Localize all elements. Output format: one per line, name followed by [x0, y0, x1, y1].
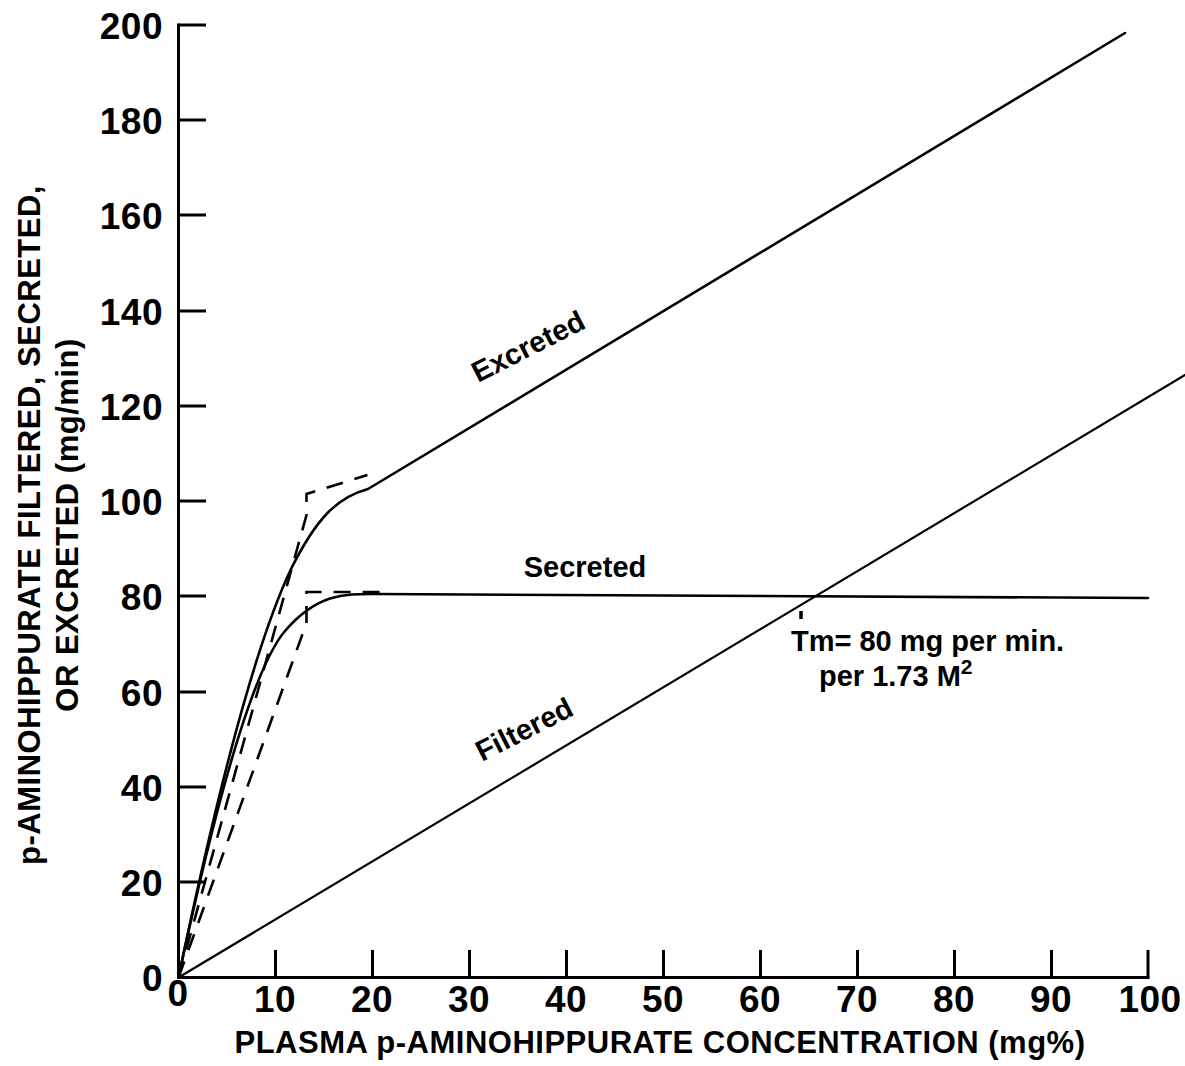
curve-label-secreted: Secreted	[524, 551, 647, 583]
y-ticklabel-40: 40	[121, 768, 163, 809]
y-ticklabel-120: 120	[100, 387, 163, 428]
x-ticks-group	[276, 950, 1149, 978]
tm-annotation-group: Tm= 80 mg per min. per 1.73 M2	[791, 611, 1064, 692]
tm-annotation-superscript: 2	[961, 655, 973, 678]
curve-filtered	[179, 375, 1185, 978]
tm-annotation-line1: Tm= 80 mg per min.	[791, 625, 1064, 657]
y-ticklabel-20: 20	[121, 863, 163, 904]
x-ticklabel-60: 60	[739, 979, 781, 1020]
curve-label-filtered: Filtered	[470, 691, 578, 767]
x-ticklabel-40: 40	[545, 979, 587, 1020]
axis-titles-group: PLASMA p-AMINOHIPPURATE CONCENTRATION (m…	[12, 185, 1086, 1060]
axes-group	[179, 25, 1149, 978]
curve-label-excreted: Excreted	[466, 304, 590, 388]
y-ticklabel-60: 60	[121, 673, 163, 714]
curve-excreted	[179, 33, 1126, 978]
y-ticklabel-80: 80	[121, 577, 163, 618]
x-ticklabel-10: 10	[254, 979, 296, 1020]
x-axis-title: PLASMA p-AMINOHIPPURATE CONCENTRATION (m…	[235, 1025, 1086, 1060]
tm-annotation-line2-text: per 1.73 M	[819, 660, 961, 692]
x-ticklabel-20: 20	[351, 979, 393, 1020]
x-ticklabel-100: 100	[1118, 979, 1181, 1020]
curve-secreted-theoretical	[179, 592, 388, 978]
y-ticklabel-0: 0	[142, 958, 163, 999]
x-ticklabel-80: 80	[933, 979, 975, 1020]
y-axis-title-line2: OR EXCRETED (mg/min)	[50, 338, 85, 711]
y-ticks-group	[179, 25, 207, 882]
curves-group	[179, 33, 1185, 978]
y-ticklabel-160: 160	[100, 196, 163, 237]
y-ticklabel-200: 200	[100, 6, 163, 47]
y-axis-title-line1: p-AMINOHIPPURATE FILTERED, SECRETED,	[12, 185, 47, 865]
tm-annotation-line2: per 1.73 M2	[819, 655, 973, 692]
x-ticklabels-group: 0 10 20 30 40 50 60 70 80 90 100	[167, 973, 1181, 1020]
y-ticklabel-140: 140	[100, 292, 163, 333]
x-ticklabel-0: 0	[167, 973, 188, 1014]
pah-renal-transport-chart: 200 180 160 140 120 100 80 60 40 20 0 0 …	[0, 0, 1185, 1066]
chart-svg: 200 180 160 140 120 100 80 60 40 20 0 0 …	[0, 0, 1185, 1066]
y-ticklabel-100: 100	[100, 482, 163, 523]
x-ticklabel-70: 70	[836, 979, 878, 1020]
y-ticklabel-180: 180	[100, 101, 163, 142]
x-ticklabel-90: 90	[1030, 979, 1072, 1020]
curve-labels-group: Excreted Secreted Filtered	[466, 304, 646, 767]
y-ticklabels-group: 200 180 160 140 120 100 80 60 40 20 0	[100, 6, 163, 999]
x-ticklabel-50: 50	[642, 979, 684, 1020]
curve-excreted-theoretical	[179, 475, 368, 978]
x-ticklabel-30: 30	[448, 979, 490, 1020]
